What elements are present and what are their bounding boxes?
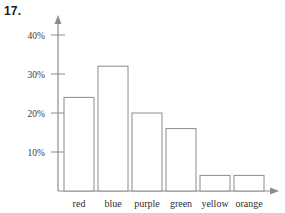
x-category-label: purple	[134, 198, 160, 209]
chart-svg: 10%20%30%40% redbluepurplegreenyellowora…	[0, 0, 285, 213]
x-category-label: orange	[235, 198, 263, 209]
category-label-group: redbluepurplegreenyelloworange	[73, 198, 264, 209]
x-category-label: blue	[104, 198, 122, 209]
y-tick-label: 40%	[28, 31, 46, 41]
bar-orange	[234, 175, 264, 191]
y-tick-label: 10%	[28, 148, 46, 158]
bar-red	[64, 97, 94, 191]
x-category-label: red	[73, 198, 86, 209]
y-axis	[55, 15, 62, 191]
y-tick-label: 20%	[28, 109, 46, 119]
bar-purple	[132, 113, 162, 191]
chart-page: 17. 10%20%30%40% redbluepurplegreenyello…	[0, 0, 285, 213]
x-axis-arrow-icon	[270, 188, 279, 195]
bar-blue	[98, 66, 128, 191]
x-category-label: yellow	[201, 198, 229, 209]
bar-chart: 10%20%30%40% redbluepurplegreenyellowora…	[0, 0, 285, 213]
bar-green	[166, 129, 196, 191]
y-tick-label: 30%	[28, 70, 46, 80]
bar-yellow	[200, 175, 230, 191]
x-category-label: green	[170, 198, 192, 209]
y-tick-group: 10%20%30%40%	[28, 31, 65, 158]
bar-group	[64, 66, 264, 191]
y-axis-arrow-icon	[55, 15, 62, 24]
